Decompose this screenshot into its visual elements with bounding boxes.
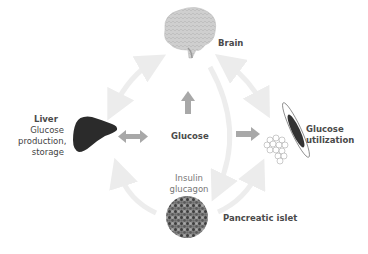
pancreatic-islet-icon — [166, 196, 208, 238]
liver-function-line: Glucose — [18, 125, 64, 136]
arrow-glucose-muscle — [236, 127, 260, 141]
arrow-pancreas-liver — [119, 172, 156, 213]
arrow-glucose-brain — [181, 91, 195, 114]
arrow-brain-muscle — [227, 63, 263, 105]
glucose-utilization-line: Glucose — [306, 124, 354, 135]
pancreatic-islet-label: Pancreatic islet — [223, 213, 297, 223]
liver-function-line: production, — [18, 136, 64, 147]
hormones-label: Insulin glucagon — [164, 173, 214, 195]
arrow-brain-pancreas — [210, 67, 230, 188]
hormone-line: Insulin — [164, 173, 214, 184]
arrow-liver-brain — [114, 62, 153, 107]
liver-function-label: Glucose production, storage — [18, 125, 64, 158]
brain-label: Brain — [218, 38, 243, 48]
glucose-label: Glucose — [171, 131, 209, 141]
fat-cells-icon — [264, 135, 288, 164]
arrow-glucose-liver — [118, 130, 148, 143]
hormone-line: glucagon — [164, 184, 214, 195]
glucose-utilization-label: Glucose utilization — [306, 124, 354, 146]
glucose-utilization-line: utilization — [306, 135, 354, 146]
brain-icon — [165, 7, 216, 58]
liver-icon — [73, 117, 117, 152]
liver-function-line: storage — [18, 147, 64, 158]
liver-label: Liver — [34, 114, 58, 124]
